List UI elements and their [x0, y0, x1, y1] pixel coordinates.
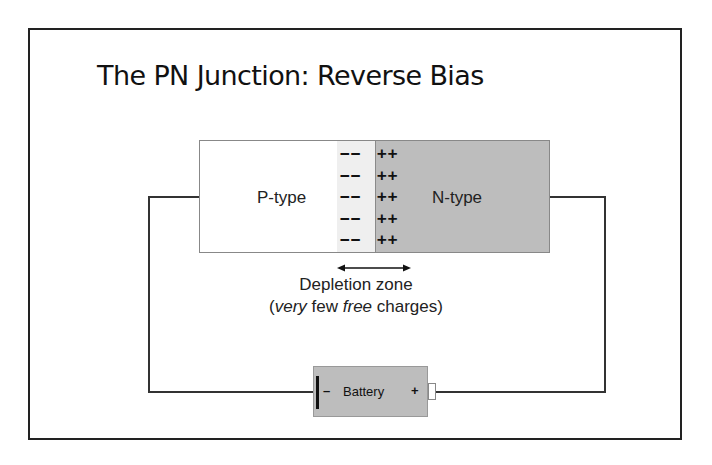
slide-title: The PN Junction: Reverse Bias [97, 60, 484, 91]
battery-positive-symbol: + [411, 383, 419, 398]
n-type-label: N-type [432, 188, 482, 208]
note-end: charges) [372, 297, 443, 316]
wire-right-top [549, 196, 606, 198]
note-mid: few [307, 297, 343, 316]
double-arrow-icon [337, 263, 411, 273]
depletion-zone-label: Depletion zone [0, 275, 712, 295]
battery: – Battery + [313, 366, 428, 417]
pn-junction-block: P-type N-type −− −− −− −− −− ++ ++ ++ ++… [199, 140, 550, 253]
depletion-zone-note: (very few free charges) [0, 297, 712, 317]
positive-charges: ++ ++ ++ ++ ++ [377, 143, 398, 251]
note-free: free [343, 297, 372, 316]
wire-left-top [148, 196, 200, 198]
battery-negative-symbol: – [323, 383, 330, 398]
battery-label: Battery [343, 384, 384, 399]
p-type-label: P-type [257, 188, 306, 208]
battery-positive-terminal [428, 383, 436, 400]
wire-left-bottom [148, 391, 315, 393]
wire-right-bottom [436, 391, 606, 393]
note-very: very [275, 297, 307, 316]
negative-charges: −− −− −− −− −− [340, 143, 361, 251]
battery-negative-terminal [316, 376, 319, 409]
